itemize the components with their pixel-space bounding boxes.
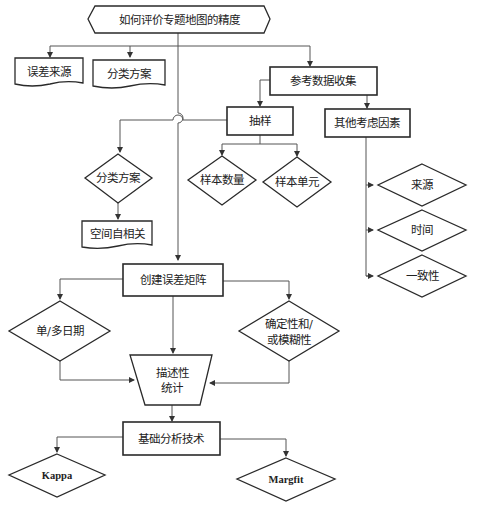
node-sampling: 抽样: [227, 107, 293, 135]
other-factors-label: 其他考虑因素: [334, 116, 400, 130]
node-descriptive-stats: 描述性 统计: [130, 355, 212, 405]
arrow-to-sample-unit: [260, 144, 297, 156]
sample-unit-label: 样本单元: [275, 175, 320, 189]
time-label: 时间: [411, 223, 433, 237]
node-single-multi-date: 单/多日期: [9, 301, 110, 361]
flowchart: 如何评价专题地图的精度 误差来源 分类方案 空间自相关 参考数据收集 抽样 其他…: [0, 0, 477, 508]
sample-size-label: 样本数量: [200, 173, 244, 187]
kappa-label: Kappa: [42, 470, 73, 481]
classification-top-label: 分类方案: [107, 67, 152, 81]
classification-diamond-label: 分类方案: [96, 171, 141, 185]
node-basic-analysis: 基础分析技术: [123, 422, 220, 455]
spatial-autocorrelation-label: 空间自相关: [90, 227, 146, 241]
deterministic-fuzzy-label-2: 或模糊性: [267, 333, 311, 347]
title-node: 如何评价专题地图的精度: [88, 6, 270, 33]
consistency-label: 一致性: [406, 269, 439, 283]
arrow-to-sample-size: [222, 135, 260, 155]
node-source: 来源: [378, 164, 466, 206]
node-kappa: Kappa: [9, 454, 105, 497]
manual-operation-trapezoid: [130, 355, 212, 405]
node-error-matrix: 创建误差矩阵: [123, 264, 223, 296]
node-sample-unit: 样本单元: [263, 157, 331, 207]
node-error-source: 误差来源: [15, 58, 83, 86]
arrow-to-classification-diamond: [120, 115, 227, 152]
descriptive-stats-label-1: 描述性: [156, 366, 189, 380]
descriptive-stats-label-2: 统计: [161, 381, 184, 395]
arrow-to-deterministic-fuzzy: [223, 281, 289, 299]
arrow-from-deterministic-fuzzy: [210, 361, 289, 383]
error-matrix-label: 创建误差矩阵: [140, 273, 207, 287]
margfit-label: Margfit: [269, 474, 304, 485]
trunk-connector: [178, 33, 183, 260]
other-factors-spine: [366, 137, 372, 276]
node-classification-diamond: 分类方案: [85, 154, 152, 203]
node-sample-size: 样本数量: [188, 156, 256, 205]
node-time: 时间: [378, 210, 466, 251]
arrow-to-single-multi-date: [60, 279, 123, 299]
sampling-label: 抽样: [249, 114, 271, 128]
node-margfit: Margfit: [237, 458, 335, 501]
node-spatial-autocorrelation: 空间自相关: [82, 221, 152, 248]
error-source-label: 误差来源: [27, 65, 72, 79]
node-classification-top: 分类方案: [93, 60, 165, 88]
arrow-from-single-multi-date: [60, 361, 134, 380]
node-reference-data: 参考数据收集: [270, 67, 377, 95]
arrow-to-kappa: [57, 437, 123, 452]
basic-analysis-label: 基础分析技术: [138, 432, 205, 446]
reference-data-label: 参考数据收集: [290, 74, 357, 88]
node-deterministic-fuzzy: 确定性和/ 或模糊性: [239, 301, 339, 361]
decision-diamond: [239, 301, 339, 361]
source-label: 来源: [411, 178, 434, 192]
single-multi-date-label: 单/多日期: [36, 324, 84, 338]
title-text: 如何评价专题地图的精度: [119, 13, 241, 27]
arrow-to-margfit: [220, 439, 286, 456]
node-consistency: 一致性: [378, 255, 466, 297]
deterministic-fuzzy-label-1: 确定性和/: [265, 317, 313, 331]
arrow-to-sampling: [260, 80, 270, 106]
node-other-factors: 其他考虑因素: [325, 109, 410, 137]
